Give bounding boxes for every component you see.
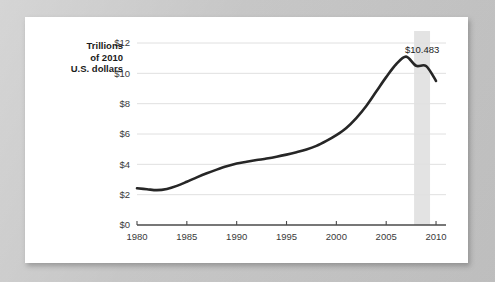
y-axis-tick-label: $4 <box>119 159 130 170</box>
x-axis-tick-label: 1980 <box>126 231 147 242</box>
chart-svg: $0$2$4$6$8$10$12Trillionsof 2010U.S. dol… <box>25 17 468 263</box>
y-axis-title-line: U.S. dollars <box>71 63 123 74</box>
figure-card: $0$2$4$6$8$10$12Trillionsof 2010U.S. dol… <box>25 17 468 263</box>
x-axis-tick-label: 1995 <box>276 231 297 242</box>
x-axis-tick-label: 1990 <box>226 231 247 242</box>
y-axis-tick-label: $2 <box>119 189 130 200</box>
recession-band <box>414 31 430 225</box>
y-axis-tick-label: $6 <box>119 128 130 139</box>
x-axis-tick-label: 2010 <box>425 231 446 242</box>
y-axis-title-line: of 2010 <box>90 52 123 63</box>
line-chart: $0$2$4$6$8$10$12Trillionsof 2010U.S. dol… <box>25 17 468 263</box>
x-axis-tick-label: 2000 <box>326 231 347 242</box>
x-axis-tick-label: 1985 <box>176 231 197 242</box>
x-axis-tick-label: 2005 <box>376 231 397 242</box>
data-line-household-debt <box>137 57 436 190</box>
y-axis-title-line: Trillions <box>87 40 123 51</box>
y-axis-tick-label: $0 <box>119 219 130 230</box>
peak-value-callout: $10.483 <box>405 44 439 55</box>
y-axis-tick-label: $8 <box>119 98 130 109</box>
